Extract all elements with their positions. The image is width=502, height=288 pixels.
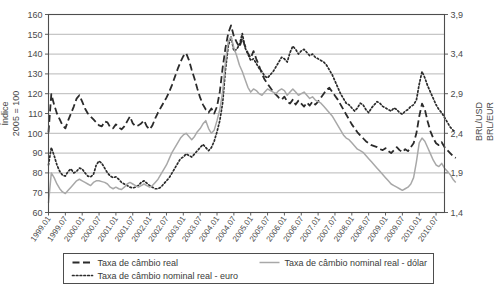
legend: Taxa de câmbio realTaxa de câmbio nomina… bbox=[64, 254, 434, 284]
y2-axis-title-line2: BRL/EUR bbox=[485, 101, 495, 141]
y-axis-tick-label: 130 bbox=[27, 69, 42, 79]
y2-axis-tick-label: 2,9 bbox=[451, 89, 464, 99]
series-line-1 bbox=[49, 25, 456, 158]
series-line-3 bbox=[49, 37, 456, 203]
y2-axis-tick-label: 3,9 bbox=[451, 10, 464, 20]
y-axis-tick-label: 90 bbox=[32, 148, 42, 158]
y-axis-tick-label: 140 bbox=[27, 49, 42, 59]
y-axis-tick-label: 60 bbox=[32, 208, 42, 218]
y-axis-tick-label: 150 bbox=[27, 30, 42, 40]
y-axis-tick-label: 120 bbox=[27, 89, 42, 99]
legend-label-3: Taxa de câmbio nominal real - dólar bbox=[285, 258, 428, 268]
y-axis-tick-label: 80 bbox=[32, 168, 42, 178]
y-axis-title-line2: 2005 = 100 bbox=[11, 91, 21, 136]
y2-axis-tick-label: 1,9 bbox=[451, 168, 464, 178]
y2-axis-tick-label: 1,4 bbox=[451, 208, 464, 218]
x-axis-ticks: 1999.011999.072000.012000.072001.012001.… bbox=[29, 213, 441, 244]
y2-axis-title: BRL/USDBRL/EUR bbox=[474, 101, 495, 141]
series-line-2 bbox=[49, 34, 456, 189]
legend-item-3[interactable]: Taxa de câmbio nominal real - dólar bbox=[260, 258, 428, 268]
legend-label-1: Taxa de câmbio real bbox=[98, 258, 179, 268]
right-axis-ticks: 1,41,92,42,93,43,9 bbox=[445, 10, 464, 218]
y2-axis-title-line1: BRL/USD bbox=[474, 101, 484, 141]
legend-item-2[interactable]: Taxa de câmbio nominal real - euro bbox=[73, 271, 239, 281]
y-axis-title: Índice2005 = 100 bbox=[0, 91, 21, 136]
y-axis-tick-label: 110 bbox=[28, 109, 42, 119]
y-axis-tick-label: 160 bbox=[27, 10, 42, 20]
legend-label-2: Taxa de câmbio nominal real - euro bbox=[98, 271, 239, 281]
exchange-rate-chart: 607080901001101201301401501601,41,92,42,… bbox=[0, 0, 502, 288]
series-group bbox=[49, 25, 456, 203]
y-axis-tick-label: 70 bbox=[32, 188, 42, 198]
y-axis-tick-label: 100 bbox=[27, 129, 42, 139]
y2-axis-tick-label: 3,4 bbox=[451, 49, 464, 59]
y-axis-title-line1: Índice bbox=[0, 101, 10, 125]
chart-canvas: 607080901001101201301401501601,41,92,42,… bbox=[0, 0, 502, 288]
